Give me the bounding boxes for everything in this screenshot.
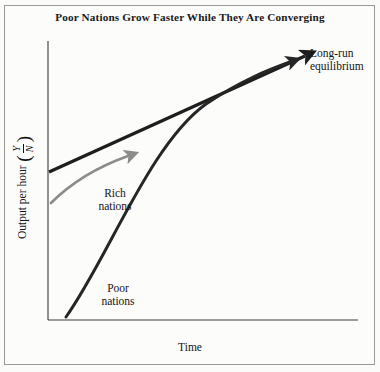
annotation-rich-line2: nations	[85, 200, 145, 213]
x-axis-label: Time	[0, 341, 380, 353]
annotation-poor-line1: Poor	[88, 282, 148, 295]
figure-container: Poor Nations Grow Faster While They Are …	[0, 0, 380, 372]
annotation-rich-line1: Rich	[85, 187, 145, 200]
annotation-long-run-line1: Long-run	[310, 47, 378, 60]
annotation-poor-nations: Poor nations	[88, 282, 148, 308]
annotation-long-run-line2: equilibrium	[310, 60, 378, 73]
annotation-rich-nations: Rich nations	[85, 187, 145, 213]
annotation-poor-line2: nations	[88, 295, 148, 308]
series-long-run-equilibrium	[49, 56, 305, 172]
annotation-long-run-equilibrium: Long-run equilibrium	[310, 47, 378, 73]
